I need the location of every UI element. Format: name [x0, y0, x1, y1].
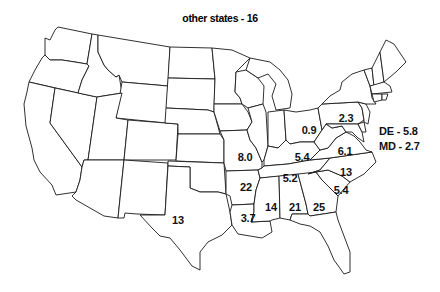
- state-label-virginia: 6.1: [338, 145, 353, 157]
- state-florida: [290, 212, 350, 274]
- state-south-dakota: [166, 78, 215, 112]
- state-iowa: [214, 104, 252, 131]
- state-label-mississippi: 14: [265, 201, 277, 213]
- state-label-louisiana: 3.7: [241, 212, 256, 224]
- state-label-south-carolina: 5.4: [334, 184, 349, 196]
- state-north-dakota: [168, 47, 215, 79]
- state-label-arkansas: 22: [240, 181, 252, 193]
- state-connecticut: [372, 94, 382, 102]
- us-map: [0, 0, 440, 292]
- state-label-pennsylvania: 2.3: [339, 112, 354, 124]
- state-label-kentucky: 5.4: [295, 151, 310, 163]
- map-title: other states - 16: [0, 12, 440, 24]
- state-maine: [380, 40, 406, 82]
- state-label-alabama: 21: [289, 201, 301, 213]
- state-rhode-island: [382, 94, 388, 100]
- state-label-texas: 13: [172, 214, 184, 226]
- state-wyoming: [116, 82, 168, 123]
- side-label-delaware: DE - 5.8: [379, 125, 418, 137]
- state-new-mexico: [118, 160, 168, 218]
- state-label-georgia: 25: [313, 201, 325, 213]
- state-colorado: [124, 120, 178, 160]
- state-kansas: [176, 134, 224, 163]
- state-label-missouri: 8.0: [238, 151, 253, 163]
- state-label-tennessee: 5.2: [283, 172, 298, 184]
- side-label-maryland: MD - 2.7: [379, 140, 420, 152]
- state-label-north-carolina: 13: [340, 166, 352, 178]
- state-washington: [45, 27, 92, 64]
- state-label-ohio: 0.9: [302, 124, 317, 136]
